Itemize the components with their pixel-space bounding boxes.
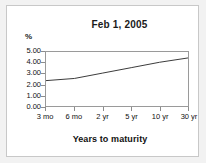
x-axis-tick-mark — [131, 107, 132, 111]
y-axis-tick-label: 4.00 — [15, 58, 41, 66]
y-axis-tick-labels: 5.004.003.002.001.000.00 — [15, 47, 41, 111]
y-axis-tick-label: 3.00 — [15, 69, 41, 77]
chart-title: Feb 1, 2005 — [37, 19, 202, 30]
x-axis-tick-mark — [103, 107, 104, 111]
x-axis-tick-mark — [160, 107, 161, 111]
y-axis-tick-label: 2.00 — [15, 81, 41, 89]
y-axis-label: % — [25, 32, 32, 41]
chart-frame: Feb 1, 2005 % 5.004.003.002.001.000.00 3… — [6, 5, 199, 157]
y-axis-tick-label: 5.00 — [15, 47, 41, 55]
plot-area — [45, 51, 189, 107]
chart-figure: Feb 1, 2005 % 5.004.003.002.001.000.00 3… — [0, 0, 206, 163]
y-axis-tick-label: 0.00 — [15, 103, 41, 111]
x-axis-tick-mark — [45, 107, 46, 111]
yield-curve-line — [46, 52, 188, 106]
x-axis-title: Years to maturity — [21, 134, 199, 144]
x-axis-tick-mark — [188, 107, 189, 111]
y-axis-tick-label: 1.00 — [15, 92, 41, 100]
x-axis-tick-labels: 3 mo6 mo2 yr5 yr10 yr30 yr — [21, 112, 206, 124]
x-axis-tick-mark — [74, 107, 75, 111]
x-axis-tick-label: 30 yr — [169, 112, 206, 121]
